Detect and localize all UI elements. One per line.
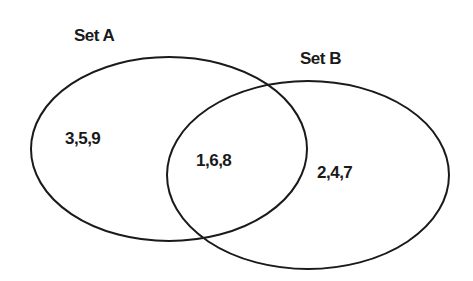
set-b-only-elements: 2,4,7 [317,164,352,181]
set-a-title: Set A [74,27,114,44]
set-b-ellipse [167,81,449,269]
venn-diagram: Set A Set B 3,5,9 1,6,8 2,4,7 [0,0,473,281]
set-a-only-elements: 3,5,9 [65,130,100,147]
intersection-elements: 1,6,8 [196,152,231,169]
set-b-title: Set B [300,50,341,67]
